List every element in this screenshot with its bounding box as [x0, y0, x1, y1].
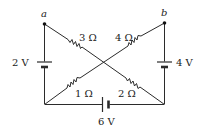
wire [140, 87, 165, 105]
bottom-branch [45, 97, 164, 112]
resistor-1ohm-label: 1 Ω [75, 88, 93, 99]
diagonal-bottom-left-to-b [45, 23, 165, 105]
battery-bottom-label: 6 V [98, 116, 116, 127]
wire [141, 23, 165, 36]
right-branch [157, 23, 172, 104]
resistor-1ohm [67, 78, 80, 89]
resistor-3ohm-label: 3 Ω [79, 32, 97, 43]
left-branch [37, 24, 52, 104]
node-a-dot [43, 22, 47, 26]
diagonal-a-to-bottom-right [45, 24, 165, 105]
resistor-2ohm-label: 2 Ω [118, 88, 136, 99]
battery-left-label: 2 V [12, 57, 30, 68]
wire [45, 88, 68, 105]
battery-right-label: 4 V [176, 57, 194, 68]
resistor-4ohm-label: 4 Ω [115, 32, 133, 43]
wire [45, 24, 69, 40]
node-b-label: b [161, 7, 167, 18]
circuit-diagram: a b 2 V 4 V 6 V 3 Ω 4 Ω 1 Ω 2 Ω [0, 0, 205, 133]
resistor-2ohm [126, 78, 140, 89]
node-b-dot [163, 21, 167, 25]
node-a-label: a [41, 8, 47, 19]
